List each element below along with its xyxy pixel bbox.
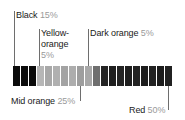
callout-yellow-orange: Yellow- orange 5% — [41, 28, 85, 61]
leader-line-black — [14, 11, 15, 66]
callout-dark-orange: Dark orange 5% — [90, 28, 154, 39]
strip-segment — [77, 66, 85, 86]
strip-segment — [149, 66, 157, 86]
strip-segment — [125, 66, 133, 86]
strip-segment — [29, 66, 37, 86]
strip-segment — [165, 66, 172, 86]
leader-line-red — [168, 86, 169, 110]
callout-red-percent: 50% — [145, 105, 165, 115]
strip-segment — [85, 66, 93, 86]
strip-segment — [69, 66, 77, 86]
strip-segment — [21, 66, 29, 86]
strip-segment — [45, 66, 53, 86]
strip-segment — [109, 66, 117, 86]
callout-mid-orange-percent: 25% — [55, 96, 75, 106]
strip-segment — [141, 66, 149, 86]
strip-segment — [133, 66, 141, 86]
leader-line-yellow-orange — [39, 29, 40, 66]
figure-canvas: Black 15% Yellow- orange 5% Dark orange … — [0, 0, 185, 120]
leader-line-mid-orange — [80, 86, 81, 101]
leader-line-dark-orange — [88, 29, 89, 66]
callout-black-label: Black — [16, 10, 38, 20]
color-distribution-strip — [13, 66, 172, 86]
callout-black-percent: 15% — [38, 10, 58, 20]
callout-mid-orange-label: Mid orange — [11, 96, 55, 106]
callout-yellow-orange-percent: 5% — [41, 50, 54, 60]
callout-yellow-orange-label-line2: orange — [41, 39, 68, 49]
callout-red: Red 50% — [129, 105, 165, 116]
strip-segment — [93, 66, 101, 86]
strip-segment — [157, 66, 165, 86]
strip-segment — [101, 66, 109, 86]
callout-yellow-orange-label-line1: Yellow- — [41, 28, 69, 38]
callout-mid-orange: Mid orange 25% — [11, 96, 75, 107]
strip-segment — [53, 66, 61, 86]
strip-segment — [61, 66, 69, 86]
strip-segment — [13, 66, 21, 86]
strip-segment — [117, 66, 125, 86]
callout-dark-orange-label: Dark orange — [90, 28, 138, 38]
strip-segment — [37, 66, 45, 86]
callout-red-label: Red — [129, 105, 145, 115]
callout-dark-orange-percent: 5% — [138, 28, 153, 38]
callout-black: Black 15% — [16, 10, 58, 21]
